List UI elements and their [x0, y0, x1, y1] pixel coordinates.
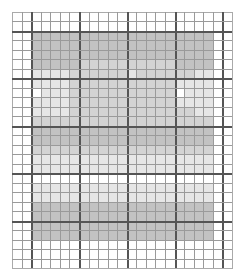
shaded-cell: [117, 183, 127, 192]
shaded-cell: [184, 59, 194, 68]
shaded-cell: [69, 88, 79, 97]
shaded-cell: [41, 40, 51, 49]
shaded-cell: [165, 97, 175, 106]
shaded-cell: [136, 97, 146, 106]
shaded-cell: [203, 211, 213, 220]
shaded-cell: [117, 116, 127, 125]
shaded-cell: [50, 145, 60, 154]
major-gridline: [12, 173, 232, 175]
shaded-cell: [50, 202, 60, 211]
shaded-cell: [60, 50, 70, 59]
shaded-cell: [136, 211, 146, 220]
shaded-cell: [165, 154, 175, 163]
shaded-cell: [60, 59, 70, 68]
shaded-cell: [60, 192, 70, 201]
minor-gridline: [12, 249, 232, 250]
shaded-cell: [203, 192, 213, 201]
minor-gridline: [12, 59, 232, 60]
minor-gridline: [12, 88, 232, 89]
shaded-cell: [117, 88, 127, 97]
minor-gridline: [12, 192, 232, 193]
shaded-cell: [69, 135, 79, 144]
shaded-cell: [50, 59, 60, 68]
shaded-cell: [60, 97, 70, 106]
shaded-cell: [60, 88, 70, 97]
shaded-cell: [136, 183, 146, 192]
shaded-cell: [60, 145, 70, 154]
shaded-cell: [117, 230, 127, 239]
shaded-cell: [203, 202, 213, 211]
shaded-cell: [136, 145, 146, 154]
minor-gridline: [12, 135, 232, 136]
shaded-cell: [203, 97, 213, 106]
shaded-cell: [108, 202, 118, 211]
shaded-cell: [136, 230, 146, 239]
shaded-cell: [203, 230, 213, 239]
shaded-cell: [184, 40, 194, 49]
shaded-cell: [136, 59, 146, 68]
shaded-cell: [155, 88, 165, 97]
shaded-cell: [41, 107, 51, 116]
shaded-cell: [50, 50, 60, 59]
shaded-cell: [165, 135, 175, 144]
shaded-cell: [98, 40, 108, 49]
shaded-cell: [136, 116, 146, 125]
shaded-cell: [184, 97, 194, 106]
shaded-cell: [184, 50, 194, 59]
shaded-cell: [60, 183, 70, 192]
shaded-cell: [41, 154, 51, 163]
shaded-cell: [165, 145, 175, 154]
shaded-cell: [98, 211, 108, 220]
shaded-cell: [69, 211, 79, 220]
shaded-cell: [41, 97, 51, 106]
shaded-cell: [117, 164, 127, 173]
shaded-cell: [50, 211, 60, 220]
shaded-cell: [194, 40, 204, 49]
shaded-cell: [155, 59, 165, 68]
shaded-cell: [165, 69, 175, 78]
shaded-cell: [117, 59, 127, 68]
shaded-cell: [194, 69, 204, 78]
shaded-cell: [50, 164, 60, 173]
minor-gridline: [12, 211, 232, 212]
shaded-cell: [108, 97, 118, 106]
shaded-cell: [136, 192, 146, 201]
shaded-cell: [136, 202, 146, 211]
shaded-cell: [98, 154, 108, 163]
minor-gridline: [12, 69, 232, 70]
shaded-cell: [155, 164, 165, 173]
shaded-cell: [136, 40, 146, 49]
shaded-cell: [117, 192, 127, 201]
shaded-cell: [194, 145, 204, 154]
shaded-cell: [50, 135, 60, 144]
shaded-cell: [194, 59, 204, 68]
shaded-cell: [98, 59, 108, 68]
shaded-cell: [194, 192, 204, 201]
shaded-cell: [60, 69, 70, 78]
shaded-cell: [194, 116, 204, 125]
shaded-cell: [41, 88, 51, 97]
shaded-cell: [194, 183, 204, 192]
shaded-cell: [69, 164, 79, 173]
shaded-cell: [108, 88, 118, 97]
shaded-cell: [194, 164, 204, 173]
shaded-cell: [69, 154, 79, 163]
major-gridline: [12, 221, 232, 223]
shaded-cell: [184, 154, 194, 163]
shaded-cell: [50, 40, 60, 49]
shaded-cell: [69, 107, 79, 116]
shaded-cell: [155, 116, 165, 125]
shaded-cell: [155, 135, 165, 144]
shaded-cell: [98, 164, 108, 173]
shaded-cell: [165, 116, 175, 125]
shaded-cell: [117, 154, 127, 163]
shaded-cell: [60, 40, 70, 49]
shaded-cell: [194, 202, 204, 211]
shaded-cell: [184, 211, 194, 220]
shaded-cell: [203, 50, 213, 59]
shaded-cell: [50, 116, 60, 125]
shaded-cell: [165, 107, 175, 116]
shaded-cell: [165, 192, 175, 201]
shaded-cell: [155, 202, 165, 211]
shaded-cell: [69, 97, 79, 106]
